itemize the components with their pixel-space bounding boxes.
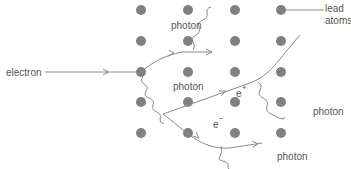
electron-charge: −: [219, 115, 224, 123]
photon-bottom-label: photon: [277, 151, 308, 162]
lead-atoms-label-line2: atoms: [325, 15, 351, 26]
photon-right-label: photon: [313, 106, 344, 117]
positron-symbol: e: [236, 88, 242, 99]
electron-label: electron: [6, 67, 42, 78]
electron-lower-arrow-icon: [193, 132, 199, 138]
positron-charge: +: [242, 84, 247, 92]
photon-bottom-wave: [219, 146, 245, 169]
electron-symbol: e: [213, 119, 219, 130]
lead-atoms-label-line1: lead: [325, 3, 344, 14]
lead-atom-lattice: [136, 5, 286, 138]
photon-top-label: photon: [171, 20, 202, 31]
deflected-electron-path: [141, 52, 212, 72]
bremsstrahlung-diagram: electron lead atoms photon photon photon…: [0, 0, 351, 169]
photon-middle-label: photon: [173, 81, 204, 92]
